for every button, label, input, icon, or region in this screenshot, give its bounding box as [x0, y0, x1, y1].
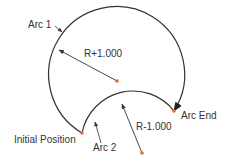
arc-1-label: Arc 1 [28, 19, 51, 30]
arc-1-path [49, 6, 185, 133]
arc-end-label: Arc End [181, 110, 217, 121]
arc-2-label: Arc 2 [93, 142, 116, 153]
radius-minus-label: R-1.000 [136, 121, 172, 132]
arc-2-leader [95, 122, 101, 143]
initial-position-label: Initial Position [14, 134, 76, 145]
arc-end-point [172, 109, 176, 113]
radius-plus-label: R+1.000 [84, 48, 122, 59]
center-point-arc-1 [115, 79, 119, 83]
center-point-arc-2 [140, 151, 144, 155]
arc-1-leader [55, 26, 62, 32]
initial-position-point [80, 131, 84, 135]
